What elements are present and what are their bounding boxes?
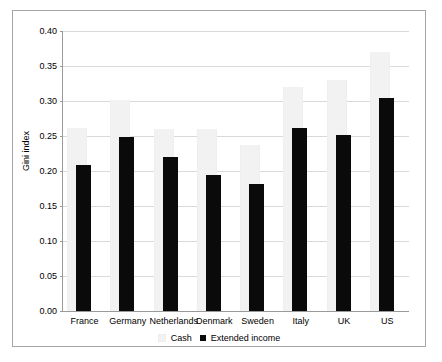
chart-legend: Cash Extended income (13, 333, 425, 343)
legend-label-cash: Cash (171, 333, 192, 343)
bar-extended-income (206, 175, 221, 312)
y-axis-tick-mark (60, 311, 63, 312)
bar-extended-income (119, 137, 134, 311)
y-axis-tick-label: 0.10 (39, 237, 57, 246)
x-axis-tick-label: Sweden (236, 317, 279, 326)
y-axis-tick-label: 0.25 (39, 132, 57, 141)
bar-extended-income (76, 165, 91, 311)
x-axis-tick-label: US (366, 317, 409, 326)
x-axis-tick-label: UK (323, 317, 366, 326)
x-axis-tick-label: Germany (106, 317, 149, 326)
y-axis-title: Gini index (21, 131, 31, 171)
legend-swatch-extended-income-icon (200, 335, 206, 341)
bar-extended-income (249, 184, 264, 311)
legend-entry-extended-income: Extended income (200, 333, 281, 343)
y-axis-tick-label: 0.20 (39, 167, 57, 176)
x-axis-tick-label: Denmark (193, 317, 236, 326)
x-axis-tick-label: Italy (279, 317, 322, 326)
bar-group: France (63, 31, 106, 311)
legend-entry-cash: Cash (158, 333, 192, 343)
y-axis-tick-label: 0.35 (39, 62, 57, 71)
bar-group: Sweden (236, 31, 279, 311)
bar-extended-income (163, 157, 178, 311)
y-axis-tick-label: 0.00 (39, 307, 57, 316)
y-axis-tick-label: 0.30 (39, 97, 57, 106)
bar-group: US (366, 31, 409, 311)
bar-group: Italy (279, 31, 322, 311)
y-axis-tick-label: 0.05 (39, 272, 57, 281)
bar-group: UK (323, 31, 366, 311)
bar-extended-income (292, 128, 307, 311)
bar-group: Netherlands (150, 31, 193, 311)
legend-label-extended-income: Extended income (211, 333, 281, 343)
bar-group: Denmark (193, 31, 236, 311)
y-axis-tick-label: 0.40 (39, 27, 57, 36)
plot-area: 0.400.350.300.250.200.150.100.050.00Fran… (62, 31, 409, 312)
bar-extended-income (336, 135, 351, 311)
legend-swatch-cash-icon (158, 334, 166, 342)
bar-group: Germany (106, 31, 149, 311)
bar-extended-income (379, 98, 394, 312)
x-axis-tick-label: France (63, 317, 106, 326)
y-axis-tick-label: 0.15 (39, 202, 57, 211)
chart-frame: Gini index 0.400.350.300.250.200.150.100… (12, 10, 426, 347)
x-axis-tick-label: Netherlands (150, 317, 193, 326)
